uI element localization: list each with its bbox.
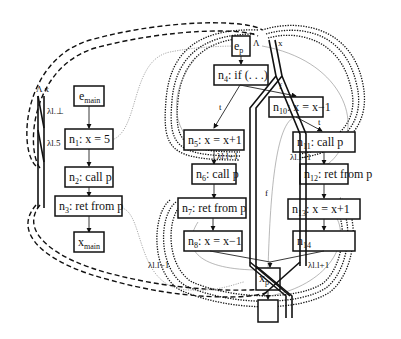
svg-text:n3: ret from p: n3: ret from p xyxy=(59,199,123,215)
supergraph-diagram: emain n1: x = 5 n2: call p n3: ret from … xyxy=(0,0,401,339)
svg-text:λl.l+1: λl.l+1 xyxy=(217,151,238,161)
node-e-p[interactable]: ep xyxy=(232,36,250,56)
procedure-p: ep Λ x n4: if (. . .) t f n10: x = x−1 t… xyxy=(0,0,372,322)
node-n11[interactable]: n12: ret from p xyxy=(300,164,372,184)
procedure-main: emain n1: x = 5 n2: call p n3: ret from … xyxy=(55,86,123,252)
svg-text:t: t xyxy=(219,102,222,112)
lambda-x-header: Λ x xyxy=(36,84,50,94)
svg-text:x: x xyxy=(278,38,283,48)
node-n5[interactable]: n5: x = x+1 xyxy=(184,130,244,150)
svg-text:f: f xyxy=(265,188,268,198)
node-n2[interactable]: n2: call p xyxy=(65,167,113,187)
fn-five-label: λl.5 xyxy=(47,138,61,148)
svg-text:λl.l−1: λl.l−1 xyxy=(148,260,169,270)
node-n13[interactable]: n14 xyxy=(293,231,355,251)
node-n9[interactable]: n10: x = x−1 xyxy=(269,97,331,117)
node-n8[interactable]: n8: x = x−1 xyxy=(184,231,242,251)
fn-bottom-label: λl.⊥ xyxy=(47,106,64,116)
node-n7[interactable]: n7: ret from p xyxy=(178,198,246,218)
node-n10[interactable]: n11: call p xyxy=(293,132,355,152)
node-n6[interactable]: n6: call p xyxy=(192,164,239,184)
node-x-main[interactable]: xmain xyxy=(74,232,104,252)
node-n4[interactable]: n4: if (. . .) xyxy=(214,65,268,85)
node-e-main[interactable]: emain xyxy=(74,86,104,106)
node-n1[interactable]: n1: x = 5 xyxy=(65,129,113,149)
svg-text:t: t xyxy=(318,117,321,127)
svg-text:Λ: Λ xyxy=(253,38,260,48)
node-n12[interactable]: n13: x = x+1 xyxy=(288,199,360,219)
node-n3[interactable]: n3: ret from p xyxy=(55,196,123,216)
svg-text:n7: ret from p: n7: ret from p xyxy=(182,201,246,217)
svg-text:λl.l+1: λl.l+1 xyxy=(308,260,329,270)
node-n14[interactable]: xp xyxy=(256,268,280,290)
